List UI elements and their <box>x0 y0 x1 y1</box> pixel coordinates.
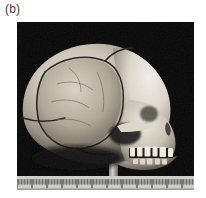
figure-panel: (b) <box>0 0 206 198</box>
scale-bar-ruler <box>17 176 194 190</box>
skull-photograph <box>17 22 194 190</box>
film-grain <box>17 22 194 190</box>
skull-illustration <box>17 22 194 190</box>
photo-content <box>17 22 194 190</box>
figure-bottom-margin <box>0 190 206 198</box>
ruler-ticks <box>17 176 194 190</box>
panel-label: (b) <box>5 2 20 16</box>
